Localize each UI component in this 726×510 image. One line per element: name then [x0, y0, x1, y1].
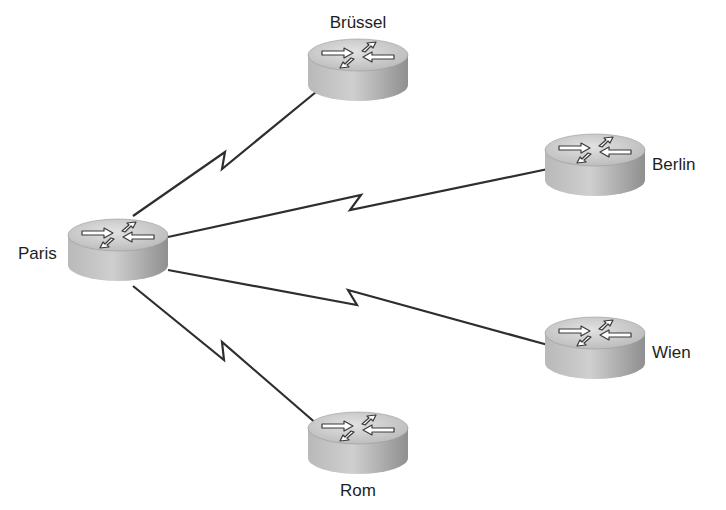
router-icon [308, 412, 408, 474]
serial-link-paris-berlin[interactable] [168, 169, 548, 237]
router-brussel[interactable] [308, 39, 408, 101]
router-wien[interactable] [545, 317, 645, 379]
label-brussel: Brüssel [330, 13, 387, 32]
links [133, 92, 548, 425]
serial-link-paris-rom[interactable] [133, 286, 318, 425]
label-paris: Paris [18, 244, 57, 263]
router-icon [68, 219, 168, 281]
router-berlin[interactable] [545, 134, 645, 196]
label-wien: Wien [652, 343, 691, 362]
router-rom[interactable] [308, 412, 408, 474]
network-diagram: Paris Brüssel Berlin Wien Rom [0, 0, 726, 510]
label-berlin: Berlin [652, 155, 695, 174]
serial-link-paris-brussel[interactable] [133, 92, 316, 216]
serial-link-paris-wien[interactable] [168, 270, 548, 345]
router-icon [545, 134, 645, 196]
router-icon [308, 39, 408, 101]
router-icon [545, 317, 645, 379]
label-rom: Rom [340, 481, 376, 500]
router-paris[interactable] [68, 219, 168, 281]
